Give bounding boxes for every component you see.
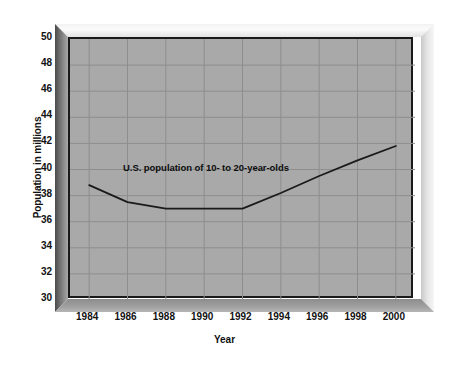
y-tick-label: 30 (22, 293, 52, 303)
x-axis-title: Year (0, 334, 449, 345)
y-tick-label: 48 (22, 58, 52, 68)
y-tick-label: 44 (22, 110, 52, 120)
frame-bevel-top (55, 24, 434, 37)
series-annotation-label: U.S. population of 10- to 20-year-olds (123, 162, 289, 173)
x-tick-label: 2000 (372, 312, 416, 322)
y-tick-label: 34 (22, 241, 52, 251)
y-tick-label: 40 (22, 163, 52, 173)
chart-figure: Population in millions 50484644424038363… (0, 0, 449, 365)
frame-bevel-right (421, 24, 434, 312)
y-tick-label: 42 (22, 136, 52, 146)
y-tick-label: 50 (22, 32, 52, 42)
frame-bevel-left (55, 24, 68, 312)
y-tick-label: 32 (22, 267, 52, 277)
y-tick-label: 36 (22, 215, 52, 225)
y-tick-label: 46 (22, 84, 52, 94)
y-tick-label: 38 (22, 189, 52, 199)
